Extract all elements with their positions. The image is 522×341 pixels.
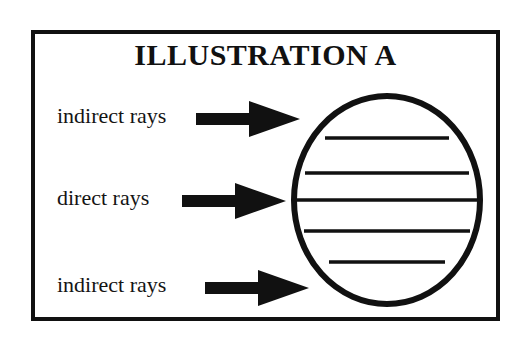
arrow-right-icon-direct xyxy=(182,182,288,224)
label-indirect-rays-top: indirect rays xyxy=(57,103,166,129)
page-title: ILLUSTRATION A xyxy=(31,38,500,72)
illustration-figure: ILLUSTRATION A indirect rays direct rays… xyxy=(0,0,522,341)
label-direct-rays: direct rays xyxy=(57,185,149,211)
earth-sphere-icon xyxy=(288,92,486,308)
arrow-right-icon-indirect-top xyxy=(196,100,302,142)
label-indirect-rays-bottom: indirect rays xyxy=(57,272,166,298)
